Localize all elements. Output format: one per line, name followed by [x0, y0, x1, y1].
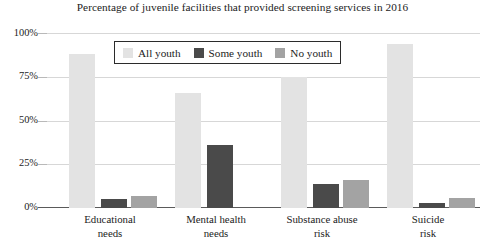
x-label-line2: risk: [365, 227, 485, 241]
legend-swatch-some-youth-icon: [194, 48, 204, 58]
chart-title: Percentage of juvenile facilities that p…: [0, 1, 485, 13]
x-label-line1: Suicide: [412, 213, 444, 225]
x-axis-label-suicide-risk: Suicide risk: [365, 213, 485, 240]
bar-suicide-risk-no-youth[interactable]: [449, 198, 475, 209]
y-axis-label-50: 50%: [0, 115, 38, 125]
bar-suicide-risk-some-youth[interactable]: [419, 203, 445, 208]
bar-group-suicide-risk: [387, 33, 485, 208]
chart-legend: All youth Some youth No youth: [114, 41, 341, 64]
legend-swatch-no-youth-icon: [275, 48, 285, 58]
y-axis-label-75: 75%: [0, 71, 38, 81]
x-label-line1: Mental health: [186, 213, 246, 225]
tick-25: [38, 164, 47, 165]
tick-50: [38, 121, 47, 122]
tick-100: [38, 33, 47, 34]
y-axis-label-0: 0%: [0, 202, 38, 212]
legend-label-no-youth: No youth: [290, 47, 332, 59]
bar-substance-abuse-risk-all-youth[interactable]: [281, 77, 307, 208]
bar-substance-abuse-risk-some-youth[interactable]: [313, 184, 339, 209]
y-axis-label-25: 25%: [0, 158, 38, 168]
bar-substance-abuse-risk-no-youth[interactable]: [343, 180, 369, 208]
bar-educational-needs-all-youth[interactable]: [69, 54, 95, 208]
legend-label-all-youth: All youth: [138, 47, 181, 59]
x-label-line1: Substance abuse: [286, 213, 357, 225]
legend-item-all-youth[interactable]: All youth: [123, 47, 181, 59]
chart-container: Percentage of juvenile facilities that p…: [0, 0, 485, 250]
y-axis-label-100: 100%: [0, 28, 38, 38]
legend-label-some-youth: Some youth: [209, 47, 263, 59]
tick-0: [38, 207, 47, 208]
bar-mental-health-needs-all-youth[interactable]: [175, 93, 201, 209]
x-label-line1: Educational: [84, 213, 136, 225]
bar-mental-health-needs-some-youth[interactable]: [207, 145, 233, 208]
legend-swatch-all-youth-icon: [123, 48, 133, 58]
bar-educational-needs-some-youth[interactable]: [101, 199, 127, 208]
bar-educational-needs-no-youth[interactable]: [131, 196, 157, 208]
legend-item-some-youth[interactable]: Some youth: [194, 47, 263, 59]
legend-item-no-youth[interactable]: No youth: [275, 47, 332, 59]
tick-75: [38, 77, 47, 78]
bar-suicide-risk-all-youth[interactable]: [387, 44, 413, 209]
